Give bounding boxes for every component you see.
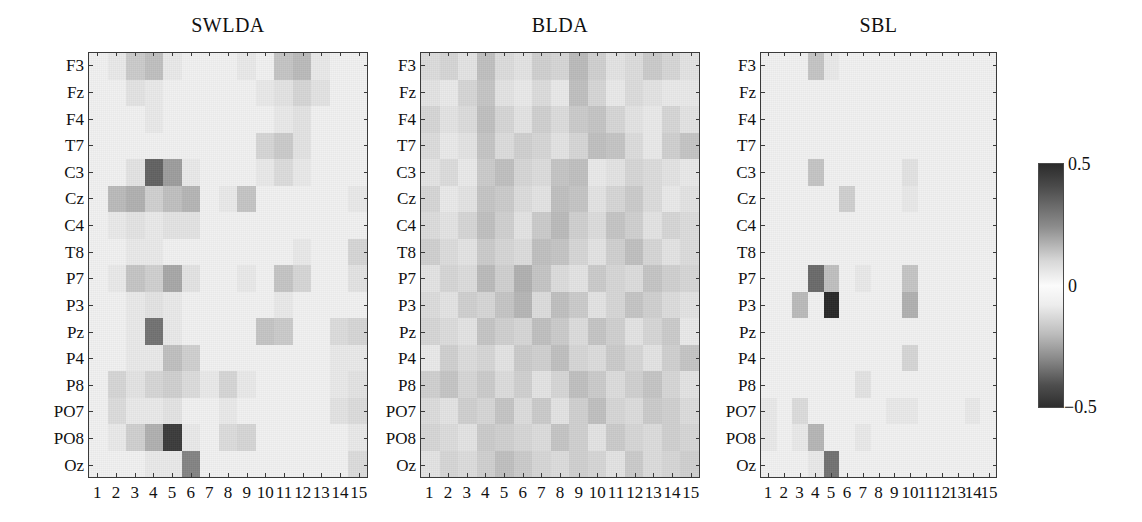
y-axis-tick-label: Pz bbox=[399, 323, 416, 340]
x-axis-tick bbox=[894, 473, 895, 478]
figure-root: SWLDA F3FzF4T7C3CzC4T8P7P3PzP4P8PO7PO8Oz… bbox=[0, 0, 1142, 522]
x-axis-tick-top bbox=[541, 52, 542, 56]
y-axis-tick bbox=[760, 411, 765, 412]
x-axis-tick bbox=[597, 473, 598, 478]
y-axis-tick bbox=[420, 252, 425, 253]
y-axis-tick bbox=[760, 465, 765, 466]
y-axis-tick bbox=[88, 198, 93, 199]
y-axis-tick-label: F4 bbox=[738, 110, 756, 127]
y-axis-tick-label: C3 bbox=[736, 163, 756, 180]
x-axis-tick-label: 2 bbox=[779, 484, 788, 501]
y-axis-tick-label: PO8 bbox=[54, 430, 84, 447]
axis-ticks-swlda bbox=[88, 52, 368, 478]
y-axis-tick bbox=[760, 65, 765, 66]
y-axis-tick bbox=[88, 385, 93, 386]
y-axis-tick-label: P4 bbox=[398, 350, 416, 367]
y-axis-tick bbox=[760, 278, 765, 279]
y-axis-tick bbox=[420, 305, 425, 306]
y-axis-tick bbox=[760, 332, 765, 333]
y-axis-tick bbox=[88, 358, 93, 359]
x-axis-tick-label: 2 bbox=[444, 484, 453, 501]
x-axis-tick-top bbox=[597, 52, 598, 56]
x-axis-tick-label: 7 bbox=[858, 484, 867, 501]
y-axis-tick bbox=[420, 198, 425, 199]
y-axis-tick-label: P3 bbox=[398, 296, 416, 313]
y-axis-tick-label: PO7 bbox=[386, 403, 416, 420]
x-axis-tick-top bbox=[616, 52, 617, 56]
x-axis-tick-label: 14 bbox=[965, 484, 982, 501]
y-axis-tick-label: F3 bbox=[66, 57, 84, 74]
y-axis-tick bbox=[88, 332, 93, 333]
x-axis-tick-top bbox=[485, 52, 486, 56]
y-axis-tick bbox=[420, 358, 425, 359]
x-axis-tick-label: 12 bbox=[933, 484, 950, 501]
y-axis-tick bbox=[88, 92, 93, 93]
x-axis-tick bbox=[191, 473, 192, 478]
x-axis-tick-label: 9 bbox=[574, 484, 583, 501]
x-axis-tick-top bbox=[429, 52, 430, 56]
y-axis-tick-label: Pz bbox=[739, 323, 756, 340]
x-axis-tick-label: 11 bbox=[918, 484, 934, 501]
x-axis-tick bbox=[863, 473, 864, 478]
y-axis-tick bbox=[760, 385, 765, 386]
x-axis-tick-top bbox=[116, 52, 117, 56]
y-axis-tick bbox=[88, 172, 93, 173]
y-axis-labels-sbl: F3FzF4T7C3CzC4T8P7P3PzP4P8PO7PO8Oz bbox=[682, 52, 756, 478]
x-axis-tick bbox=[831, 473, 832, 478]
x-axis-tick bbox=[942, 473, 943, 478]
x-axis-tick-label: 15 bbox=[981, 484, 998, 501]
x-axis-tick-top bbox=[879, 52, 880, 56]
y-axis-tick-label: C3 bbox=[396, 163, 416, 180]
colorbar-label-mid: 0 bbox=[1068, 277, 1077, 295]
y-axis-tick-label: PO7 bbox=[54, 403, 84, 420]
x-axis-tick bbox=[784, 473, 785, 478]
x-axis-tick-label: 6 bbox=[518, 484, 527, 501]
x-axis-tick-top bbox=[815, 52, 816, 56]
x-axis-tick-label: 6 bbox=[186, 484, 195, 501]
y-axis-labels-blda: F3FzF4T7C3CzC4T8P7P3PzP4P8PO7PO8Oz bbox=[342, 52, 416, 478]
x-axis-tick bbox=[228, 473, 229, 478]
x-axis-tick-label: 8 bbox=[556, 484, 565, 501]
y-axis-tick bbox=[760, 305, 765, 306]
y-axis-tick bbox=[420, 278, 425, 279]
y-axis-tick-right bbox=[993, 411, 997, 412]
y-axis-tick bbox=[88, 278, 93, 279]
x-axis-tick-label: 6 bbox=[843, 484, 852, 501]
y-axis-tick-right bbox=[993, 385, 997, 386]
x-axis-tick bbox=[135, 473, 136, 478]
y-axis-tick-right bbox=[993, 252, 997, 253]
x-axis-tick-top bbox=[831, 52, 832, 56]
y-axis-tick bbox=[420, 438, 425, 439]
y-axis-tick-label: Oz bbox=[736, 456, 756, 473]
x-axis-tick-label: 13 bbox=[949, 484, 966, 501]
y-axis-tick-label: P8 bbox=[738, 376, 756, 393]
y-axis-tick bbox=[88, 465, 93, 466]
x-axis-tick-top bbox=[910, 52, 911, 56]
y-axis-tick-label: C4 bbox=[64, 217, 84, 234]
x-axis-tick-top bbox=[153, 52, 154, 56]
axis-ticks-blda bbox=[420, 52, 700, 478]
y-axis-tick-label: F3 bbox=[738, 57, 756, 74]
y-axis-tick-label: T7 bbox=[737, 137, 756, 154]
x-axis-tick-label: 3 bbox=[462, 484, 471, 501]
x-axis-tick-label: 3 bbox=[130, 484, 139, 501]
y-axis-tick bbox=[88, 145, 93, 146]
y-axis-tick-label: Fz bbox=[67, 83, 84, 100]
panel-title-swlda: SWLDA bbox=[88, 14, 368, 37]
y-axis-tick-label: Fz bbox=[399, 83, 416, 100]
y-axis-tick bbox=[420, 119, 425, 120]
x-axis-tick-top bbox=[191, 52, 192, 56]
y-axis-tick-label: P7 bbox=[738, 270, 756, 287]
y-axis-tick-right bbox=[993, 305, 997, 306]
x-axis-tick bbox=[768, 473, 769, 478]
x-axis-tick-label: 1 bbox=[764, 484, 773, 501]
x-axis-tick bbox=[800, 473, 801, 478]
x-axis-tick-top bbox=[303, 52, 304, 56]
y-axis-tick-label: Pz bbox=[67, 323, 84, 340]
x-axis-tick-top bbox=[973, 52, 974, 56]
panel-title-blda: BLDA bbox=[420, 14, 700, 37]
y-axis-tick bbox=[420, 385, 425, 386]
x-axis-tick-top bbox=[863, 52, 864, 56]
x-axis-tick-top bbox=[228, 52, 229, 56]
y-axis-tick-label: P3 bbox=[66, 296, 84, 313]
